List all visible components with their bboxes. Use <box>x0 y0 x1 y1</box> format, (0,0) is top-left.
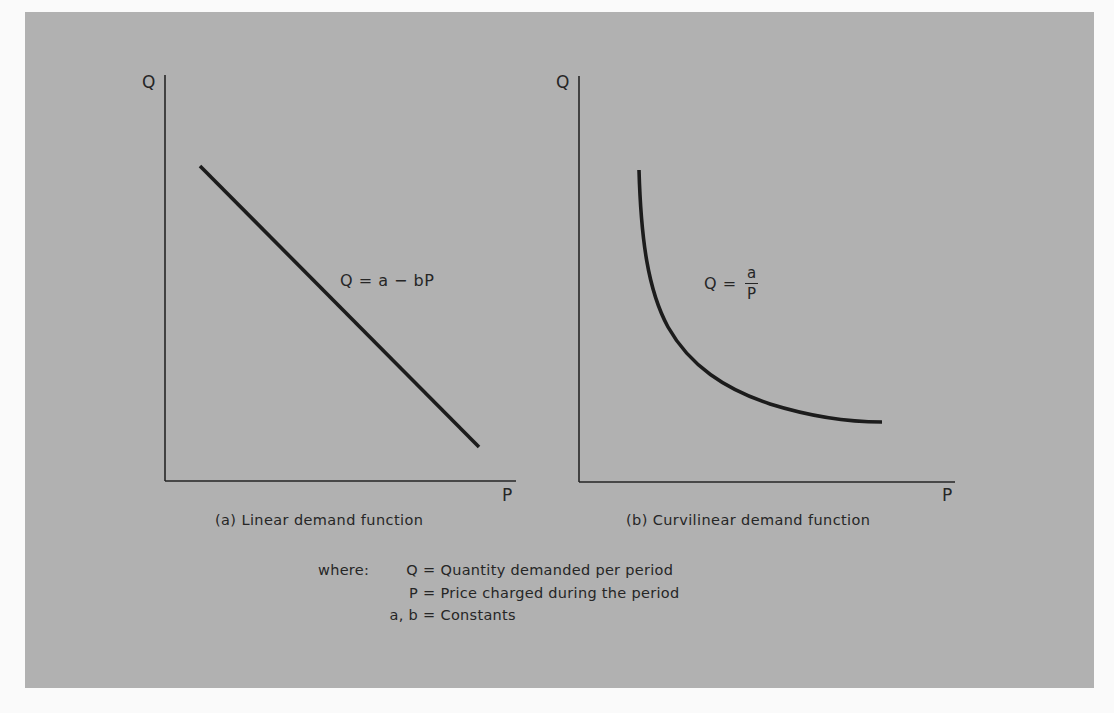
legend-equals: = <box>423 586 440 601</box>
curvilinear-x-axis-label: P <box>942 487 952 504</box>
legend-row-q: Q = Quantity demanded per period <box>361 563 673 578</box>
legend-definition: Quantity demanded per period <box>440 563 673 578</box>
legend-equals: = <box>423 563 440 578</box>
demand-function-figure: Q P Q = a − bP (a) Linear demand functio… <box>0 0 1114 713</box>
curvilinear-caption: (b) Curvilinear demand function <box>626 513 870 528</box>
linear-y-axis-label: Q <box>142 74 155 91</box>
legend-definition: Constants <box>440 608 515 623</box>
linear-x-axis-label: P <box>502 487 512 504</box>
legend-definition: Price charged during the period <box>440 586 679 601</box>
legend-row-constants: a, b = Constants <box>361 608 516 623</box>
fraction-denominator: P <box>747 284 756 302</box>
linear-formula: Q = a − bP <box>340 273 434 289</box>
legend-symbol: Q <box>361 563 423 578</box>
curvilinear-demand-curve <box>639 170 882 422</box>
plot-canvas <box>0 0 1114 713</box>
legend-symbol: a, b <box>361 608 423 623</box>
curvilinear-y-axis-label: Q <box>556 74 569 91</box>
linear-demand-line <box>200 166 479 447</box>
curvilinear-formula-fraction: a P <box>745 266 758 302</box>
legend-symbol: P <box>361 586 423 601</box>
linear-caption: (a) Linear demand function <box>215 513 423 528</box>
legend-equals: = <box>423 608 440 623</box>
fraction-numerator: a <box>745 266 758 284</box>
legend-row-p: P = Price charged during the period <box>361 586 679 601</box>
curvilinear-panel-axes <box>579 76 955 482</box>
curvilinear-formula-lhs: Q = <box>704 276 737 292</box>
